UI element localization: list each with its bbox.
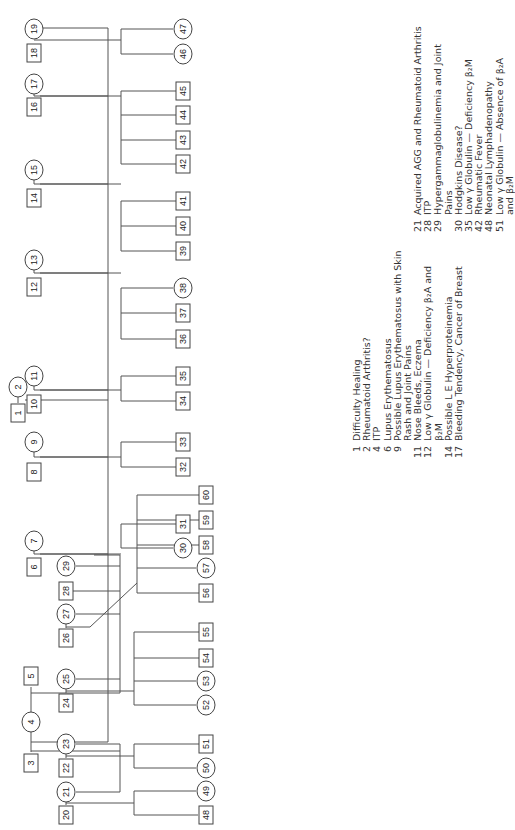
female-node-47: 47 [174,19,192,39]
node-label: 9 [29,439,39,444]
node-label: 52 [201,700,211,710]
node-label: 56 [201,588,211,598]
node-label: 53 [201,676,211,686]
pedigree-connector [90,583,137,627]
pedigree-lines [18,28,199,815]
node-label: 33 [178,437,188,447]
female-node-25: 25 [57,669,75,689]
node-label: 44 [178,110,188,120]
male-node-5: 5 [24,667,38,685]
node-label: 48 [201,810,211,820]
node-label: 7 [29,538,39,543]
female-node-7: 7 [25,531,43,551]
male-node-37: 37 [176,304,190,322]
legend-entry-text: Acquired AGG and Rheumatoid Arthritis [413,26,423,215]
male-node-1: 1 [11,404,25,422]
node-label: 8 [29,469,39,474]
male-node-22: 22 [59,759,73,777]
male-node-14: 14 [27,189,41,207]
legend-entry-number: 51 [495,215,505,240]
node-label: 49 [201,786,211,796]
legend-entry-number: 2 [362,441,372,466]
male-node-12: 12 [27,278,41,296]
legend-entry-number: 6 [383,441,393,466]
node-label: 40 [178,221,188,231]
female-node-53: 53 [197,671,215,691]
node-label: 55 [201,627,211,637]
node-label: 26 [61,633,71,643]
node-label: 29 [61,561,71,571]
node-label: 51 [201,739,211,749]
female-node-17: 17 [25,74,43,94]
node-label: 27 [61,609,71,619]
node-label: 46 [178,49,188,59]
legend-left: 1Difficulty Healing2Rheumatoid Arthritis… [352,251,464,466]
male-node-56: 56 [199,584,213,602]
female-node-46: 46 [174,44,192,64]
male-node-32: 32 [176,458,190,476]
legend-entry-number: 12 [423,441,433,466]
node-label: 37 [178,308,188,318]
male-node-3: 3 [24,754,38,772]
node-label: 15 [29,165,39,175]
node-label: 12 [29,282,39,292]
node-label: 39 [178,246,188,256]
node-label: 38 [178,283,188,293]
node-label: 18 [29,48,39,58]
female-node-29: 29 [57,556,75,576]
node-label: 42 [178,159,188,169]
female-node-50: 50 [197,758,215,778]
node-label: 45 [178,86,188,96]
node-label: 43 [178,135,188,145]
male-node-44: 44 [176,106,190,124]
legend-entry-number: 4 [372,441,382,466]
male-node-42: 42 [176,155,190,173]
node-label: 35 [178,371,188,381]
male-node-35: 35 [176,367,190,385]
node-label: 24 [61,698,71,708]
node-label: 19 [29,24,39,34]
male-node-26: 26 [59,629,73,647]
legend-entry-number: 9 [393,441,403,466]
female-node-9: 9 [25,432,43,452]
male-node-34: 34 [176,392,190,410]
node-label: 25 [61,674,71,684]
female-node-21: 21 [57,782,75,802]
node-label: 22 [61,763,71,773]
male-node-43: 43 [176,131,190,149]
node-label: 20 [61,810,71,820]
female-node-2: 2 [9,377,27,397]
male-node-54: 54 [199,649,213,667]
node-label: 11 [29,371,39,380]
female-node-11: 11 [25,366,43,386]
legend-entry-number: 17 [454,441,464,466]
node-label: 36 [178,334,188,344]
legend-entry-text: Bleeding Tendency, Cancer of Breast [454,266,464,441]
male-node-10: 10 [27,395,41,413]
node-label: 6 [29,564,39,569]
female-node-4: 4 [22,712,40,732]
female-node-27: 27 [57,604,75,624]
female-node-19: 19 [25,19,43,39]
female-node-15: 15 [25,160,43,180]
node-label: 10 [29,399,39,409]
node-label: 34 [178,396,188,406]
node-label: 5 [26,673,36,678]
node-label: 30 [178,543,188,553]
male-node-6: 6 [27,558,41,576]
male-node-59: 59 [199,511,213,529]
node-label: 2 [13,384,23,389]
legend-entry-text: Rheumatoid Arthritis? [362,337,372,441]
male-node-16: 16 [27,98,41,116]
male-node-40: 40 [176,217,190,235]
node-label: 57 [201,563,211,573]
male-node-28: 28 [59,582,73,600]
node-label: 31 [178,519,188,529]
female-node-30: 30 [174,538,192,558]
female-node-13: 13 [25,250,43,270]
female-node-57: 57 [197,558,215,578]
male-node-24: 24 [59,694,73,712]
male-node-31: 31 [176,515,190,533]
female-node-52: 52 [197,695,215,715]
female-node-38: 38 [174,278,192,298]
